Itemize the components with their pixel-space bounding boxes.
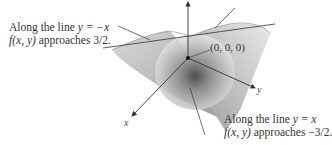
annotation-y-eq-x: Along the line y = x f(x, y) approaches … <box>224 113 332 139</box>
annotation-text: approaches 3/2. <box>36 34 111 46</box>
y-axis-label: y <box>257 84 261 95</box>
annotation-function: f(x, y) <box>9 34 36 46</box>
x-axis-label: x <box>124 117 128 128</box>
annotation-text: Along the line <box>9 21 78 33</box>
origin-label: (0, 0, 0) <box>210 41 245 53</box>
annotation-text: approaches −3/2. <box>251 126 332 138</box>
origin-point <box>186 56 190 60</box>
annotation-y-neg-x: Along the line y = −x f(x, y) approaches… <box>9 21 111 47</box>
annotation-equation: y = −x <box>78 21 109 33</box>
annotation-function: f(x, y) <box>224 126 251 138</box>
annotation-text: Along the line <box>224 113 293 125</box>
annotation-equation: y = x <box>293 113 317 125</box>
leader-line-top <box>118 26 150 40</box>
